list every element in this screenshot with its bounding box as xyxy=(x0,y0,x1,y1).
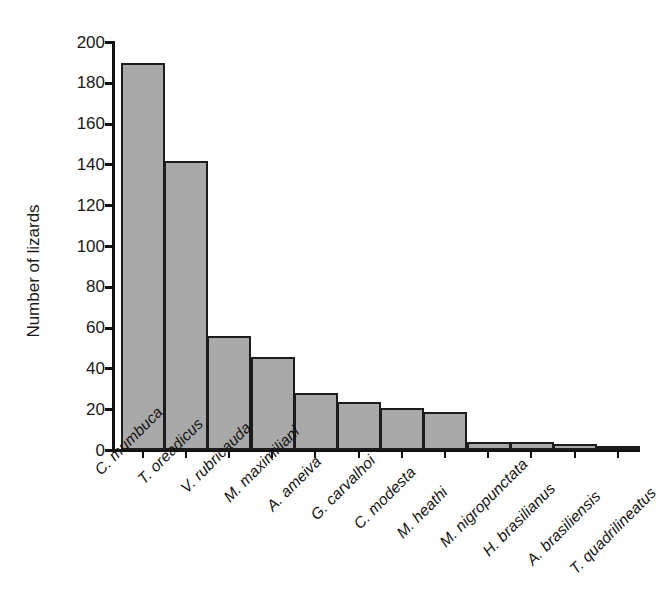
y-tick-label: 160 xyxy=(57,115,105,132)
bar xyxy=(294,393,338,450)
y-tick-label: 200 xyxy=(57,34,105,51)
y-tick-label: 180 xyxy=(57,74,105,91)
y-axis-title: Number of lizards xyxy=(24,171,44,371)
y-tick-mark xyxy=(105,82,112,85)
y-tick-label: 120 xyxy=(57,197,105,214)
y-tick-label: 40 xyxy=(57,360,105,377)
x-tick-mark xyxy=(487,452,489,458)
y-tick-label: 20 xyxy=(57,401,105,418)
y-tick-mark xyxy=(105,163,112,166)
x-tick-mark xyxy=(401,452,403,458)
bar xyxy=(467,442,511,450)
y-tick-mark xyxy=(105,286,112,289)
y-tick-mark xyxy=(105,204,112,207)
x-tick-mark xyxy=(574,452,576,458)
y-tick-mark xyxy=(105,327,112,330)
y-tick-label: 60 xyxy=(57,319,105,336)
y-tick-mark xyxy=(105,245,112,248)
bar xyxy=(596,446,640,450)
bar xyxy=(380,408,424,451)
y-tick-label: 140 xyxy=(57,156,105,173)
x-tick-mark xyxy=(444,452,446,458)
x-tick-mark xyxy=(185,452,187,458)
y-axis-line xyxy=(112,41,115,452)
y-tick-mark xyxy=(105,41,112,44)
x-axis-label: M. nigropunctata xyxy=(436,455,532,551)
y-tick-label: 100 xyxy=(57,238,105,255)
bar xyxy=(337,402,381,451)
bar xyxy=(164,161,208,451)
bar xyxy=(510,442,554,450)
y-tick-label: 80 xyxy=(57,278,105,295)
y-tick-label: 0 xyxy=(57,442,105,459)
y-tick-mark xyxy=(105,123,112,126)
bar xyxy=(121,63,165,451)
y-tick-mark xyxy=(105,408,112,411)
bar xyxy=(553,444,597,450)
y-tick-mark xyxy=(105,367,112,370)
x-tick-mark xyxy=(617,452,619,458)
x-tick-mark xyxy=(530,452,532,458)
bar xyxy=(423,412,467,451)
x-tick-mark xyxy=(142,452,144,458)
